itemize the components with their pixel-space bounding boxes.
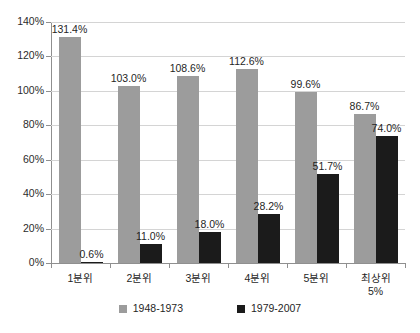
y-axis-tick-label: 60% [0,154,44,165]
bar [258,214,280,263]
bar [59,37,81,263]
y-axis-tick-label: 140% [0,16,44,27]
bar-value-label: 18.0% [187,219,233,230]
bar-value-label: 74.0% [364,123,410,134]
x-axis-tick [51,263,52,268]
bar [317,174,339,263]
y-axis-tick-label: 20% [0,223,44,234]
x-axis-tick [405,263,406,268]
x-axis-tick [110,263,111,268]
bar-value-label: 108.6% [165,63,211,74]
y-axis-tick-label: 0% [0,257,44,268]
bar [295,92,317,263]
bar-value-label: 28.2% [246,201,292,212]
x-axis-tick [346,263,347,268]
x-axis-category-label: 2분위 [110,272,169,285]
bar [177,76,199,263]
y-axis-tick-label: 100% [0,85,44,96]
bar [140,244,162,263]
bar [354,114,376,263]
gridline [51,160,405,161]
bar [81,262,103,263]
bar [376,136,398,263]
x-axis-category-label: 4분위 [228,272,287,285]
legend-swatch-icon [119,305,127,313]
x-axis-category-label: 최상위 5% [346,272,405,298]
bar-value-label: 131.4% [47,24,93,35]
gridline [51,125,405,126]
y-axis-tick-label: 40% [0,188,44,199]
bar-value-label: 86.7% [342,101,388,112]
gridline [51,194,405,195]
bar-value-label: 11.0% [128,231,174,242]
bar-value-label: 0.6% [69,249,115,260]
gridline [51,91,405,92]
bar-value-label: 112.6% [224,56,270,67]
gridline [51,22,405,23]
legend-item-series-b: 1979-2007 [237,303,301,314]
legend-label: 1948-1973 [133,303,183,314]
y-axis-tick-label: 80% [0,119,44,130]
x-axis-category-label: 3분위 [169,272,228,285]
x-axis-tick [228,263,229,268]
bar [236,69,258,263]
x-axis-tick [169,263,170,268]
x-axis-tick [287,263,288,268]
legend-label: 1979-2007 [251,303,301,314]
legend-item-series-a: 1948-1973 [119,303,183,314]
chart-legend: 1948-1973 1979-2007 [0,303,420,314]
bar-chart: 0%20%40%60%80%100%120%140% 131.4%0.6%103… [0,0,420,333]
bar [199,232,221,263]
x-axis-category-label: 1분위 [51,272,110,285]
bar-value-label: 51.7% [305,161,351,172]
bar-value-label: 103.0% [106,73,152,84]
legend-swatch-icon [237,305,245,313]
y-axis-tick-label: 120% [0,50,44,61]
x-axis-category-label: 5분위 [287,272,346,285]
bar-value-label: 99.6% [283,79,329,90]
